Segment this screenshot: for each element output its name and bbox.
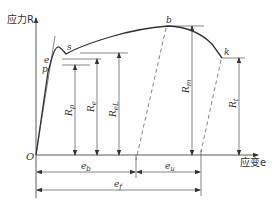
stress-strain-diagram: 应力R 应变e O p e s b k Rp Re ReL Rm Rt eb e… — [0, 0, 280, 207]
point-p-label: p — [42, 64, 48, 74]
rm-label: Rm — [181, 79, 193, 94]
y-axis-label: 应力R — [7, 13, 34, 25]
point-k-label: k — [224, 47, 229, 57]
point-s-label: s — [67, 42, 72, 52]
eb-label: eb — [81, 161, 91, 173]
point-b-label: b — [166, 15, 172, 25]
eu-label: eu — [165, 161, 175, 173]
unload-line-k — [201, 60, 221, 152]
rt-label: Rt — [228, 98, 240, 109]
re-label: Re — [86, 101, 98, 113]
rel-label: ReL — [108, 101, 120, 118]
rp-label: Rp — [64, 104, 76, 117]
x-axis-label: 应变e — [240, 156, 266, 168]
ef-label: ef — [114, 179, 123, 191]
stress-strain-curve — [36, 26, 222, 155]
unload-line-b — [136, 28, 166, 160]
origin-label: O — [26, 151, 34, 162]
point-e-label: e — [44, 55, 49, 65]
